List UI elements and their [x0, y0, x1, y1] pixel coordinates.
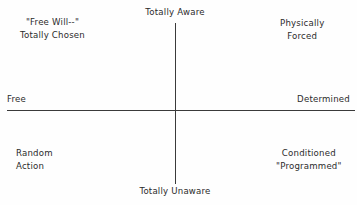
quadrant-top-left-line2: Totally Chosen: [20, 29, 85, 42]
axis-label-totally-aware: Totally Aware: [145, 6, 204, 19]
axis-label-determined: Determined: [297, 93, 350, 106]
quadrant-bottom-left-random-action: Random Action: [16, 147, 53, 172]
vertical-axis-awareness: [175, 23, 176, 184]
quadrant-bottom-left-line1: Random: [16, 147, 53, 160]
quadrant-top-right-line2: Forced: [280, 30, 324, 43]
quadrant-bottom-left-line2: Action: [16, 160, 53, 173]
horizontal-axis-freedom: [7, 110, 355, 111]
quadrant-bottom-right-line2: "Programmed": [276, 160, 342, 173]
quadrant-bottom-right-line1: Conditioned: [276, 147, 342, 160]
quadrant-top-left-line1: "Free Will--": [20, 16, 85, 29]
quadrant-top-left-free-will: "Free Will--" Totally Chosen: [20, 16, 85, 41]
quadrant-bottom-right-conditioned: Conditioned "Programmed": [276, 147, 342, 172]
quadrant-diagram: Totally Aware Totally Unaware Free Deter…: [0, 0, 357, 205]
quadrant-top-right-line1: Physically: [280, 17, 324, 30]
axis-label-free: Free: [7, 93, 26, 106]
axis-label-totally-unaware: Totally Unaware: [139, 185, 210, 198]
quadrant-top-right-physically-forced: Physically Forced: [280, 17, 324, 42]
